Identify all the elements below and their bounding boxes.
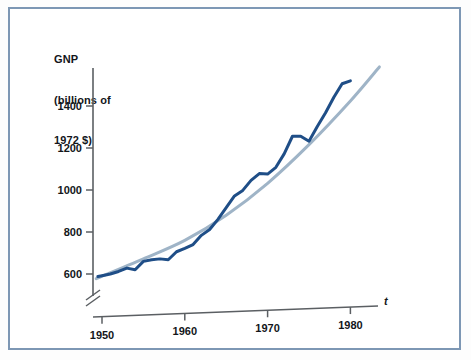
- axis-lines: [93, 68, 378, 317]
- x-axis-line: [93, 306, 378, 317]
- trend-line-series: [96, 67, 379, 279]
- chart-page: GNP (billions of 1972 $) 600800100012001…: [0, 0, 471, 360]
- actual-gnp-series: [98, 81, 351, 277]
- y-axis-ticks: [86, 106, 93, 274]
- chart-canvas: [0, 0, 471, 360]
